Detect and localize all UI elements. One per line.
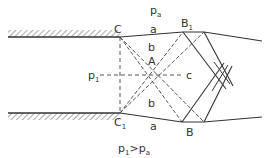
upper-wall-hatch — [8, 30, 120, 37]
label-C1: C1 — [114, 117, 126, 131]
label-pa-top: pa — [150, 5, 161, 19]
label-b-top: b — [148, 42, 155, 53]
label-p1: p1 — [88, 70, 99, 84]
lower-wall-hatch — [8, 113, 120, 120]
reflect-B-2 — [204, 66, 232, 122]
nozzle-diagram — [0, 0, 270, 158]
upper-jet-boundary — [120, 32, 262, 41]
label-a-bottom: a — [150, 121, 157, 132]
label-B1: B1 — [181, 18, 193, 32]
reflect-B1-2 — [204, 32, 233, 86]
label-b-bottom: b — [148, 98, 155, 109]
label-B: B — [186, 127, 194, 138]
label-condition: p1>pa — [118, 143, 150, 157]
label-a-top: a — [150, 24, 157, 35]
label-c: c — [186, 70, 192, 81]
label-C: C — [114, 24, 122, 35]
label-A: A — [148, 56, 156, 67]
lower-jet-boundary — [120, 113, 262, 122]
